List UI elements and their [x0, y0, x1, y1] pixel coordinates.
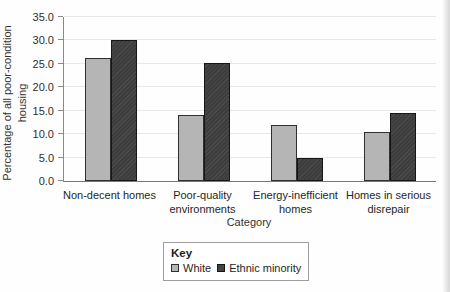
y-tick-label: 30.0	[0, 33, 59, 47]
gridline	[64, 16, 436, 17]
y-tick-label: 25.0	[0, 57, 59, 71]
legend-box: Key WhiteEthnic minority	[163, 242, 309, 281]
y-tick-mark	[58, 16, 63, 17]
y-tick-mark	[58, 86, 63, 87]
legend-label-ethnic-minority: Ethnic minority	[229, 262, 301, 274]
bar-ethnic-minority-3	[297, 158, 323, 181]
legend-label-white: White	[183, 262, 211, 274]
bar-white-1	[85, 58, 111, 181]
y-axis-labels: 0.05.010.015.020.025.030.035.0	[0, 17, 59, 181]
y-tick-mark	[58, 157, 63, 158]
y-tick-mark	[58, 110, 63, 111]
y-tick-label: 5.0	[0, 151, 59, 165]
bar-ethnic-minority-1	[111, 40, 137, 182]
bar-ethnic-minority-2	[204, 63, 230, 181]
y-tick-label: 10.0	[0, 127, 59, 141]
legend-items: WhiteEthnic minority	[171, 262, 301, 274]
y-tick-label: 35.0	[0, 10, 59, 24]
y-tick-label: 0.0	[0, 174, 59, 188]
legend-item-ethnic-minority: Ethnic minority	[217, 262, 301, 274]
plot-area	[63, 17, 436, 182]
x-axis-title: Category	[63, 216, 435, 228]
page-scan-edge	[442, 0, 450, 292]
bar-chart-figure: Percentage of all poor-conditionhousing …	[0, 0, 450, 292]
legend-title: Key	[171, 247, 301, 259]
y-tick-mark	[58, 180, 63, 181]
x-category-label: Homes in seriousdisrepair	[327, 188, 450, 217]
y-tick-mark	[58, 39, 63, 40]
legend-swatch-ethnic-minority	[217, 264, 225, 272]
bar-white-2	[178, 115, 204, 181]
y-tick-label: 15.0	[0, 104, 59, 118]
legend-swatch-white	[171, 264, 179, 272]
y-tick-mark	[58, 63, 63, 64]
bar-white-4	[364, 132, 390, 181]
bar-ethnic-minority-4	[390, 113, 416, 181]
legend-item-white: White	[171, 262, 211, 274]
bar-white-3	[271, 125, 297, 181]
y-tick-mark	[58, 133, 63, 134]
y-tick-label: 20.0	[0, 80, 59, 94]
